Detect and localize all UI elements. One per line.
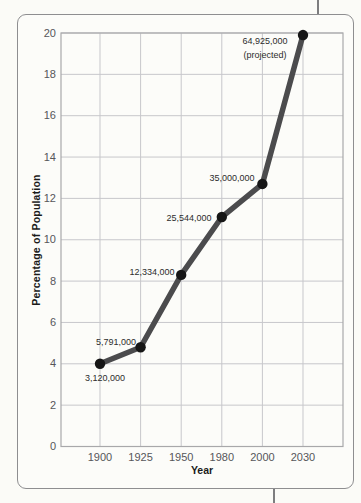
population-line-chart: 0246810121416182019001925195019802000203… [0, 0, 361, 503]
y-tick-label: 4 [50, 357, 56, 369]
y-tick-label: 16 [44, 109, 56, 121]
y-tick-label: 18 [44, 68, 56, 80]
data-point-label: 25,544,000 [166, 213, 211, 223]
data-point-marker [176, 270, 186, 280]
data-point-label: 5,791,000 [96, 337, 136, 347]
trend-line [100, 35, 303, 364]
x-tick-label: 1925 [128, 451, 152, 463]
data-point-marker [135, 342, 145, 352]
y-tick-label: 8 [50, 275, 56, 287]
data-point-label: (projected) [243, 50, 286, 60]
data-point-marker [95, 359, 105, 369]
y-tick-label: 14 [44, 151, 56, 163]
data-point-marker [257, 179, 267, 189]
data-point-label: 64,925,000 [242, 36, 287, 46]
data-point-label: 3,120,000 [85, 373, 125, 383]
data-point-label: 35,000,000 [209, 173, 254, 183]
y-tick-label: 10 [44, 233, 56, 245]
data-point-marker [298, 30, 308, 40]
x-tick-label: 1950 [169, 451, 193, 463]
x-tick-label: 1980 [210, 451, 234, 463]
x-tick-label: 2000 [250, 451, 274, 463]
y-tick-label: 2 [50, 399, 56, 411]
y-tick-label: 0 [50, 440, 56, 452]
x-tick-label: 2030 [291, 451, 315, 463]
x-tick-label: 1900 [88, 451, 112, 463]
data-point-label: 12,334,000 [129, 267, 174, 277]
y-tick-label: 6 [50, 316, 56, 328]
y-tick-label: 20 [44, 27, 56, 39]
data-point-marker [217, 212, 227, 222]
y-tick-label: 12 [44, 192, 56, 204]
